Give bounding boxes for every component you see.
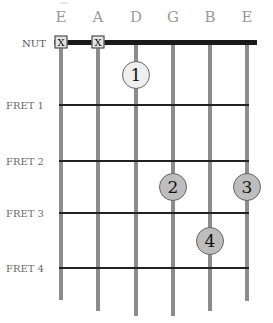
string-label-g: G <box>167 8 179 26</box>
string-b <box>208 44 212 311</box>
fret-line-1 <box>59 104 249 106</box>
fret-label-2: FRET 2 <box>6 156 44 167</box>
finger-dot-3: 3 <box>233 173 261 201</box>
string-label-a: A <box>93 8 104 26</box>
string-label-high-e: E <box>242 8 253 26</box>
fret-line-3 <box>59 212 249 214</box>
string-label-d: D <box>130 8 142 26</box>
nut-label: NUT <box>22 38 46 49</box>
finger-dot-1: 1 <box>122 61 150 89</box>
fret-label-3: FRET 3 <box>6 208 44 219</box>
finger-dot-4: 4 <box>196 227 224 255</box>
string-label-low-e: E <box>56 8 67 26</box>
nut <box>54 40 257 45</box>
string-a <box>96 44 100 311</box>
fret-label-4: FRET 4 <box>6 263 44 274</box>
finger-dot-2: 2 <box>159 173 187 201</box>
fret-line-2 <box>59 160 249 162</box>
muted-low-e-icon: X <box>55 36 68 49</box>
fret-label-1: FRET 1 <box>6 100 44 111</box>
string-low-e <box>59 44 63 300</box>
string-label-b: B <box>204 8 215 26</box>
muted-a-icon: X <box>92 36 105 49</box>
top-mark <box>60 2 68 4</box>
fret-line-4 <box>59 267 249 269</box>
